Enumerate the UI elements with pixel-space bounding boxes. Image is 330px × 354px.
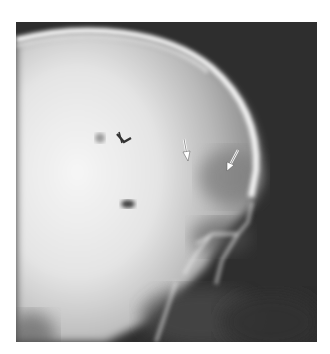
skull-xray-image [16,22,317,342]
cropped-header-text [210,0,320,6]
